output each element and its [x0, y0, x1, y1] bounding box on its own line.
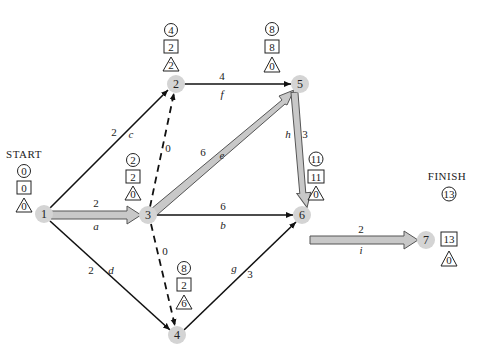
- edge-c: 2 c: [50, 90, 168, 208]
- edge-d: 2 d: [50, 221, 170, 330]
- edge-i: 2 i: [310, 223, 418, 256]
- edge-b-duration: 6: [220, 200, 226, 212]
- node-1-latest: 0: [21, 182, 27, 194]
- node-3-slack: 0: [130, 188, 136, 200]
- edge-c-duration: 2: [111, 126, 117, 138]
- node-4: 4: [168, 326, 186, 344]
- node-5-latest: 8: [269, 41, 275, 53]
- node-7-earliest: 13: [444, 188, 456, 200]
- network-diagram: 2 c 2 d 0 0 6 b 4 f g 3 2 a 6 e: [0, 0, 477, 361]
- node-2-times: 4 2 2: [163, 24, 179, 72]
- edge-e-name: e: [220, 149, 225, 161]
- node-2: 2: [167, 75, 185, 93]
- node-2-earliest: 4: [168, 24, 174, 36]
- edge-d-duration: 2: [88, 264, 94, 276]
- edge-e: 6 e: [151, 90, 294, 215]
- edge-dummy-3-4: 0: [151, 224, 175, 326]
- edge-dummy-3-2: 0: [150, 93, 174, 207]
- node-1-earliest: 0: [21, 165, 27, 177]
- node-6-latest: 11: [311, 171, 322, 183]
- node-4-earliest: 8: [181, 262, 187, 274]
- node-3-label: 3: [145, 208, 151, 222]
- node-3-times: 2 2 0: [125, 154, 141, 201]
- node-7-label: 7: [423, 233, 429, 247]
- node-4-slack: 6: [181, 297, 187, 309]
- edge-a: 2 a: [51, 197, 141, 232]
- edge-dummy-3-4-duration: 0: [162, 245, 168, 257]
- edge-b: 6 b: [156, 200, 293, 231]
- node-4-label: 4: [174, 328, 180, 342]
- node-7: 7: [417, 231, 435, 249]
- node-1-label: 1: [41, 207, 47, 221]
- node-5-earliest: 8: [269, 23, 275, 35]
- edge-a-duration: 2: [93, 197, 99, 209]
- edge-g-name: g: [231, 262, 237, 274]
- node-7-times: 13 13 0: [441, 187, 457, 266]
- node-2-slack: 2: [168, 59, 174, 71]
- node-5: 5: [291, 75, 309, 93]
- edge-d-name: d: [108, 264, 114, 276]
- edge-i-duration: 2: [358, 223, 364, 235]
- node-2-label: 2: [173, 77, 179, 91]
- edge-g-duration: 3: [247, 268, 253, 280]
- node-1-times: 0 0 0: [16, 165, 32, 213]
- node-2-latest: 2: [168, 41, 174, 53]
- node-5-slack: 0: [269, 60, 275, 72]
- node-6: 6: [293, 206, 311, 224]
- edge-f-name: f: [220, 88, 225, 100]
- start-label: START: [6, 148, 42, 160]
- edge-b-name: b: [220, 219, 226, 231]
- node-3: 3: [139, 206, 157, 224]
- edge-h: h 3: [285, 92, 312, 209]
- node-4-latest: 2: [181, 279, 187, 291]
- node-1-slack: 0: [21, 200, 27, 212]
- node-1: 1: [35, 205, 53, 223]
- node-6-earliest: 11: [311, 153, 322, 165]
- edge-h-name: h: [285, 128, 291, 140]
- node-4-times: 8 2 6: [176, 262, 192, 310]
- edge-h-duration: 3: [302, 128, 308, 140]
- edge-f: 4 f: [184, 70, 291, 100]
- edge-i-name: i: [359, 244, 362, 256]
- finish-label: FINISH: [428, 170, 466, 182]
- node-5-times: 8 8 0: [264, 23, 280, 73]
- edge-a-name: a: [93, 220, 99, 232]
- edge-c-name: c: [129, 128, 134, 140]
- node-3-earliest: 2: [130, 154, 136, 166]
- node-7-latest: 13: [444, 233, 456, 245]
- edge-e-duration: 6: [200, 146, 206, 158]
- node-5-label: 5: [297, 77, 303, 91]
- node-3-latest: 2: [130, 171, 136, 183]
- edge-g: g 3: [184, 222, 296, 330]
- node-7-slack: 0: [446, 254, 452, 266]
- node-6-slack: 0: [313, 188, 319, 200]
- edge-f-duration: 4: [219, 70, 225, 82]
- edge-dummy-3-2-duration: 0: [165, 142, 171, 154]
- node-6-label: 6: [299, 208, 305, 222]
